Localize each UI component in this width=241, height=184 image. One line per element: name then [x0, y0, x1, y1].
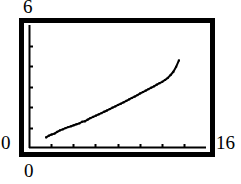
data-point	[136, 94, 138, 96]
data-point	[170, 74, 172, 76]
data-point	[84, 120, 86, 122]
data-point	[59, 129, 61, 131]
data-point	[156, 84, 158, 86]
data-point	[145, 90, 147, 92]
data-point	[147, 88, 149, 90]
data-point	[76, 123, 78, 125]
data-point	[142, 91, 144, 93]
data-point	[178, 59, 180, 61]
data-point	[175, 66, 177, 68]
data-point	[150, 87, 152, 89]
y-axis-min-label: 0	[1, 133, 11, 152]
data-point	[53, 133, 55, 135]
data-point	[45, 136, 47, 138]
data-point	[89, 117, 91, 119]
data-point	[87, 119, 89, 121]
data-point	[67, 126, 69, 128]
data-point	[98, 113, 100, 115]
data-point	[100, 112, 102, 114]
data-point	[48, 135, 50, 137]
y-axis-max-label: 6	[23, 0, 33, 16]
data-line-0	[46, 60, 179, 137]
data-point	[172, 71, 174, 73]
data-point	[112, 107, 114, 109]
data-point	[114, 105, 116, 107]
data-point	[123, 101, 125, 103]
data-point	[139, 92, 141, 94]
data-point	[51, 133, 53, 135]
plot-axes	[29, 25, 206, 148]
data-point	[62, 128, 64, 130]
data-point	[65, 127, 67, 129]
chart-canvas	[0, 0, 241, 184]
data-point	[117, 104, 119, 106]
data-point	[56, 131, 58, 133]
data-point	[120, 103, 122, 105]
data-point	[161, 81, 163, 83]
data-point	[164, 79, 166, 81]
data-point	[159, 82, 161, 84]
x-axis-max-label: 16	[216, 133, 235, 152]
data-point	[109, 108, 111, 110]
data-point	[103, 111, 105, 113]
data-point	[153, 85, 155, 87]
data-point	[70, 125, 72, 127]
data-point	[78, 122, 80, 124]
data-point	[128, 98, 130, 100]
data-point	[106, 109, 108, 111]
data-point	[125, 100, 127, 102]
data-point	[73, 124, 75, 126]
data-point	[167, 77, 169, 79]
data-series-group	[45, 59, 180, 138]
data-point	[92, 116, 94, 118]
data-point	[131, 97, 133, 99]
chart-figure: 6 0 0 16	[0, 0, 241, 184]
x-axis-min-label: 0	[24, 161, 34, 180]
data-point	[134, 96, 136, 98]
data-point	[81, 121, 83, 123]
data-point	[95, 115, 97, 117]
